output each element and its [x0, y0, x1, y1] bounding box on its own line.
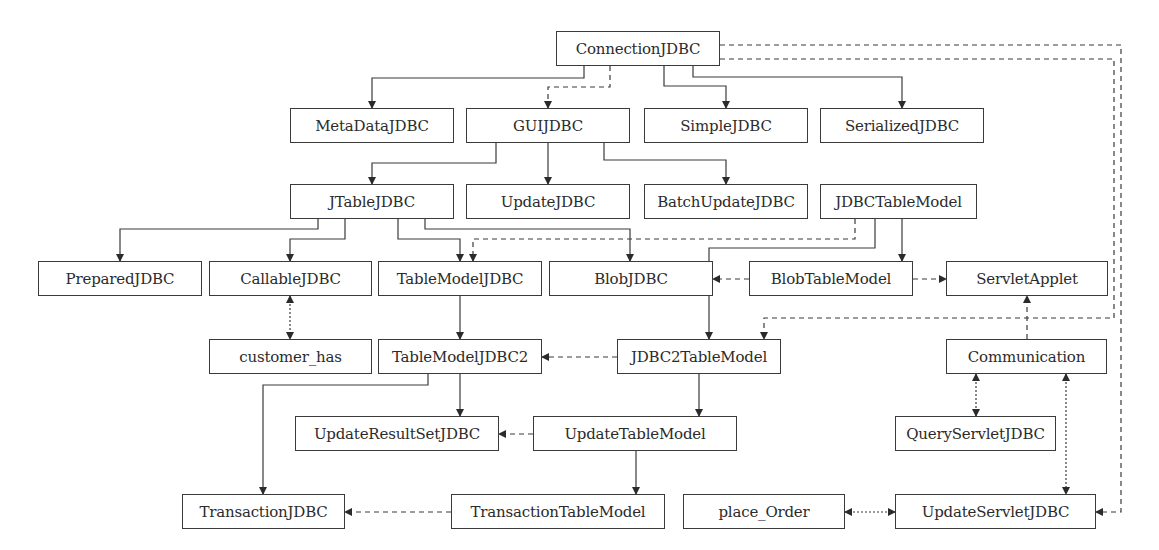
- edge-connectionjdbc-to-simplejdbc: [664, 66, 726, 108]
- class-node-tablemodeljdbc2[interactable]: TableModelJDBC2: [378, 339, 542, 374]
- class-node-label: JDBCTableModel: [835, 193, 962, 211]
- class-node-label: SerializedJDBC: [845, 117, 959, 135]
- class-node-label: customer_has: [239, 348, 342, 366]
- class-node-jdbc2tablemodel[interactable]: JDBC2TableModel: [617, 339, 781, 374]
- edge-connectionjdbc-to-guijdbc: [548, 66, 610, 108]
- class-node-label: JDBC2TableModel: [631, 348, 767, 366]
- edge-jtablejdbc-to-blobjdbc: [425, 219, 630, 261]
- class-node-label: place_Order: [718, 503, 809, 521]
- class-node-tablemodeljdbc[interactable]: TableModelJDBC: [378, 261, 542, 296]
- class-node-transactiontablemodel[interactable]: TransactionTableModel: [451, 494, 665, 529]
- edge-guijdbc-to-batchupdatejdbc: [604, 143, 726, 184]
- class-node-label: JTableJDBC: [329, 193, 415, 211]
- class-node-label: CallableJDBC: [240, 270, 341, 288]
- class-node-updatejdbc[interactable]: UpdateJDBC: [466, 184, 630, 219]
- class-node-servletapplet[interactable]: ServletApplet: [946, 261, 1108, 296]
- class-node-label: ConnectionJDBC: [576, 40, 701, 58]
- edge-jtablejdbc-to-preparedjdbc: [120, 219, 318, 261]
- edge-jdbctablemodel-to-tablemodeljdbc: [473, 219, 855, 261]
- class-node-label: UpdateServletJDBC: [922, 503, 1070, 521]
- class-node-simplejdbc[interactable]: SimpleJDBC: [644, 108, 808, 143]
- class-node-label: PreparedJDBC: [66, 270, 175, 288]
- class-node-communication[interactable]: Communication: [946, 339, 1107, 374]
- class-node-label: UpdateResultSetJDBC: [314, 425, 480, 443]
- class-node-label: GUIJDBC: [513, 117, 583, 135]
- class-node-label: UpdateTableModel: [564, 425, 705, 443]
- class-node-blobtablemodel[interactable]: BlobTableModel: [749, 261, 913, 296]
- edge-guijdbc-to-jtablejdbc: [372, 143, 496, 184]
- class-node-transactionjdbc[interactable]: TransactionJDBC: [182, 494, 345, 529]
- class-node-jtablejdbc[interactable]: JTableJDBC: [290, 184, 454, 219]
- class-node-connectionjdbc[interactable]: ConnectionJDBC: [556, 31, 720, 66]
- class-node-blobjdbc[interactable]: BlobJDBC: [549, 261, 713, 296]
- class-node-label: TransactionTableModel: [471, 503, 646, 521]
- class-node-preparedjdbc[interactable]: PreparedJDBC: [38, 261, 202, 296]
- class-node-label: Communication: [968, 348, 1085, 366]
- edge-connectionjdbc-to-metadatajdbc: [372, 66, 584, 108]
- class-node-jdbctablemodel[interactable]: JDBCTableModel: [820, 184, 977, 219]
- class-node-serializedjdbc[interactable]: SerializedJDBC: [820, 108, 984, 143]
- class-diagram: ConnectionJDBCMetaDataJDBCGUIJDBCSimpleJ…: [0, 0, 1159, 550]
- class-node-label: BatchUpdateJDBC: [657, 193, 795, 211]
- class-node-label: MetaDataJDBC: [315, 117, 429, 135]
- class-node-guijdbc[interactable]: GUIJDBC: [466, 108, 630, 143]
- class-node-label: QueryServletJDBC: [906, 425, 1045, 443]
- class-node-label: BlobJDBC: [594, 270, 668, 288]
- class-node-updatetablemodel[interactable]: UpdateTableModel: [533, 416, 737, 451]
- class-node-label: UpdateJDBC: [501, 193, 596, 211]
- class-node-metadatajdbc[interactable]: MetaDataJDBC: [290, 108, 454, 143]
- class-node-label: ServletApplet: [976, 270, 1078, 288]
- class-node-label: SimpleJDBC: [680, 117, 771, 135]
- class-node-label: TransactionJDBC: [199, 503, 327, 521]
- class-node-updateservletjdbc[interactable]: UpdateServletJDBC: [895, 494, 1096, 529]
- edge-jtablejdbc-to-tablemodeljdbc: [398, 219, 460, 261]
- class-node-customer-has[interactable]: customer_has: [209, 339, 372, 374]
- edge-connectionjdbc-to-serializedjdbc: [693, 66, 902, 108]
- class-node-label: TableModelJDBC2: [392, 348, 528, 366]
- class-node-queryservletjdbc[interactable]: QueryServletJDBC: [895, 416, 1056, 451]
- class-node-label: TableModelJDBC: [397, 270, 524, 288]
- class-node-updateresultsetjdbc[interactable]: UpdateResultSetJDBC: [295, 416, 499, 451]
- class-node-callablejdbc[interactable]: CallableJDBC: [209, 261, 372, 296]
- class-node-place-order[interactable]: place_Order: [683, 494, 845, 529]
- class-node-batchupdatejdbc[interactable]: BatchUpdateJDBC: [644, 184, 808, 219]
- class-node-label: BlobTableModel: [771, 270, 891, 288]
